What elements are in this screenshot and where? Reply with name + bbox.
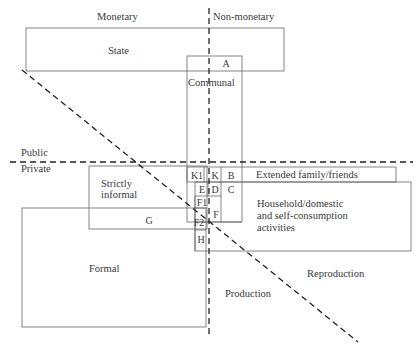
cell-c: C (224, 184, 238, 195)
label-household-2: and self-consumption (257, 210, 348, 221)
label-production: Production (225, 288, 271, 299)
cell-f: F (211, 209, 221, 220)
label-private: Private (21, 163, 51, 174)
label-household-3: activities (257, 222, 295, 233)
cell-f2: F2 (192, 217, 206, 228)
label-household-1: Household/domestic (257, 198, 343, 209)
cell-b: B (224, 170, 238, 181)
label-communal: Communal (188, 77, 235, 88)
cell-f1: F1 (196, 197, 208, 208)
state-box (26, 28, 284, 71)
label-monetary: Monetary (97, 11, 138, 22)
cell-g: G (143, 215, 155, 226)
label-formal: Formal (89, 263, 119, 274)
label-extended-family: Extended family/friends (256, 169, 358, 180)
cell-h: H (196, 234, 206, 245)
cell-e: E (196, 184, 208, 195)
label-state: State (108, 45, 129, 56)
cell-k: K (209, 170, 221, 181)
cell-a: A (220, 58, 232, 69)
cell-d: D (209, 184, 221, 195)
label-non-monetary: Non-monetary (213, 11, 274, 22)
label-public: Public (21, 147, 48, 158)
label-strictly-informal-1: Strictly (101, 178, 132, 189)
label-strictly-informal-2: informal (101, 189, 137, 200)
cell-k1: K1 (190, 170, 204, 181)
label-reproduction: Reproduction (307, 268, 364, 279)
